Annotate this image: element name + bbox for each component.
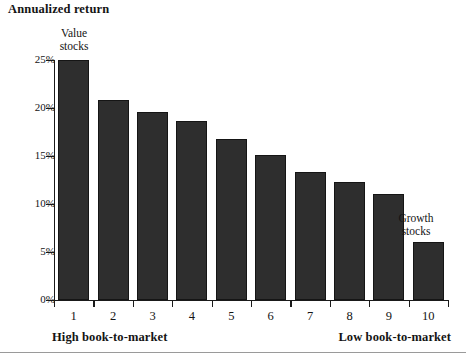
annotation-value-stocks-line1: Value: [42, 27, 106, 40]
x-axis-tick: [172, 300, 173, 307]
x-axis-tick: [290, 300, 291, 307]
x-axis-tick-label: 3: [133, 309, 173, 324]
y-axis-tick-label: 15%: [11, 149, 55, 161]
x-axis-caption-right: Low book-to-market: [338, 330, 451, 345]
x-axis-tick-label: 5: [211, 309, 251, 324]
x-axis-tick: [448, 300, 449, 307]
annotation-growth-stocks-line2: stocks: [384, 225, 448, 238]
bar: [137, 112, 168, 300]
x-axis-tick-label: 7: [290, 309, 330, 324]
bar: [176, 121, 207, 300]
x-axis-tick: [369, 300, 370, 307]
y-axis-tick-label: 10%: [11, 197, 55, 209]
figure-bar-chart-annualized-return: Annualized return 0%5%10%15%20%25% 12345…: [0, 0, 466, 359]
x-axis-tick-label: 8: [330, 309, 370, 324]
y-axis-line: [54, 60, 55, 301]
annotation-value-stocks-line2: stocks: [42, 40, 106, 53]
bar: [98, 100, 129, 300]
x-axis-tick: [251, 300, 252, 307]
x-axis-tick: [330, 300, 331, 307]
bottom-divider: [0, 352, 466, 353]
annotation-growth-stocks-line1: Growth: [384, 212, 448, 225]
plot-area: 0%5%10%15%20%25% 12345678910: [0, 0, 466, 359]
x-axis-tick: [212, 300, 213, 307]
x-axis-tick-label: 4: [172, 309, 212, 324]
bar: [373, 194, 404, 300]
bar: [334, 182, 365, 300]
annotation-growth-stocks: Growth stocks: [384, 212, 448, 238]
x-axis-tick: [93, 300, 94, 307]
bar: [255, 155, 286, 300]
bar: [216, 139, 247, 300]
x-axis-caption-left: High book-to-market: [52, 330, 167, 345]
bar: [58, 60, 89, 300]
annotation-value-stocks: Value stocks: [42, 27, 106, 53]
x-axis-tick: [54, 300, 55, 307]
x-axis-tick-label: 2: [93, 309, 133, 324]
bar: [295, 172, 326, 300]
y-axis-tick-label: 20%: [11, 101, 55, 113]
y-axis-tick-label: 0%: [11, 293, 55, 305]
x-axis-tick-label: 6: [251, 309, 291, 324]
x-axis-tick-label: 1: [54, 309, 94, 324]
x-axis-tick: [409, 300, 410, 307]
x-axis-tick: [133, 300, 134, 307]
y-axis-tick-label: 25%: [11, 53, 55, 65]
y-axis-tick-label: 5%: [11, 245, 55, 257]
x-axis-tick-label: 9: [369, 309, 409, 324]
x-axis-tick-label: 10: [408, 309, 448, 324]
bar: [413, 242, 444, 300]
